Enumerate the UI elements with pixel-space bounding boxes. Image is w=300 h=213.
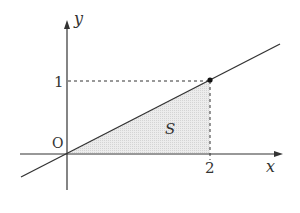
y-tick-label: 1 — [54, 73, 64, 91]
x-axis-arrow-icon — [274, 151, 283, 157]
line-y-equals-half-x — [21, 44, 280, 177]
y-axis-arrow-icon — [64, 20, 70, 29]
x-axis-label: x — [266, 157, 275, 176]
x-tick-label: 2 — [205, 159, 215, 177]
region-s-label: S — [165, 120, 175, 138]
coordinate-diagram: y x O 1 2 S — [0, 0, 300, 213]
point-2-1 — [207, 77, 212, 82]
origin-label: O — [52, 135, 63, 151]
y-axis-label: y — [73, 9, 84, 28]
